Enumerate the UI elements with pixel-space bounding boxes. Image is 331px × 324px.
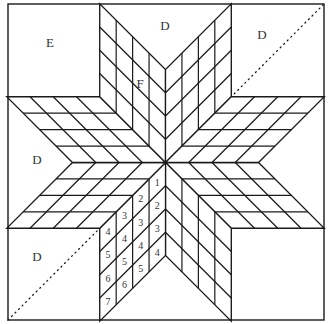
cell-number: 3 [155,223,160,234]
cell-number: 6 [122,279,127,290]
cell-number: 6 [105,273,110,284]
cell-number: 2 [138,193,143,204]
cell-number: 1 [155,177,160,188]
cell-number: 3 [138,217,143,228]
cell-number: 3 [122,210,127,221]
cell-number: 7 [105,296,110,307]
cell-number: 4 [138,240,143,251]
label-corner-bottom-left: D [32,249,41,264]
cell-number: 5 [138,263,143,274]
cell-number: 4 [122,233,127,244]
label-diamond-top-left: F [136,76,143,91]
label-triangle-left: D [32,152,41,167]
label-triangle-top: D [160,18,169,33]
cell-number: 5 [105,249,110,260]
cell-number: 5 [122,256,127,267]
label-corner-top-left: E [46,35,54,50]
label-corner-top-right: D [257,27,266,42]
cell-number: 4 [105,226,110,237]
center-point [164,161,168,165]
cell-number: 2 [155,200,160,211]
cell-number: 4 [155,247,160,258]
lone-star-diagram: EDDFDD 1234234534564567 [0,0,331,324]
